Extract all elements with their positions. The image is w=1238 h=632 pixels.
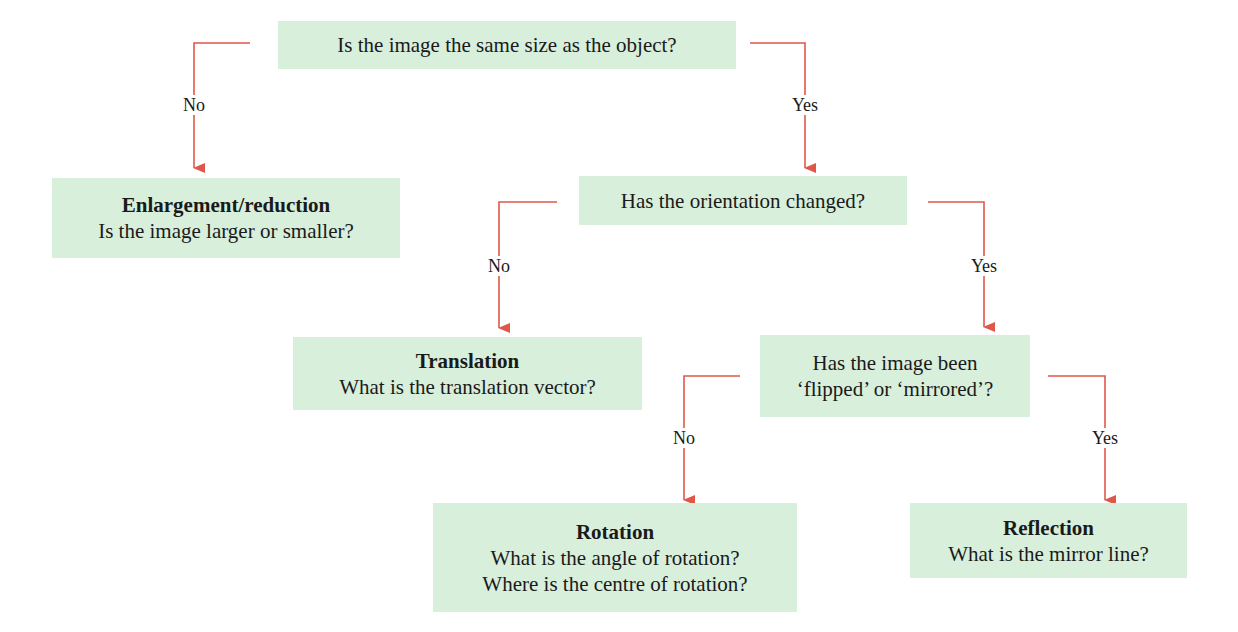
node-reflection-title: Reflection [1003, 515, 1094, 541]
node-flipped-line1: Has the image been [812, 350, 977, 376]
node-rotation-title: Rotation [576, 519, 654, 545]
label-same-size-yes: Yes [790, 95, 820, 115]
node-translation-title: Translation [416, 348, 519, 374]
node-translation-question: What is the translation vector? [339, 374, 596, 400]
node-same-size-text: Is the image the same size as the object… [337, 32, 676, 58]
node-flipped-line2: ‘flipped’ or ‘mirrored’? [797, 376, 994, 402]
node-rotation: Rotation What is the angle of rotation? … [433, 503, 797, 612]
label-orientation-yes: Yes [969, 256, 999, 276]
node-enlargement: Enlargement/reduction Is the image large… [52, 178, 400, 258]
node-translation: Translation What is the translation vect… [293, 337, 642, 410]
node-reflection: Reflection What is the mirror line? [910, 503, 1187, 578]
node-rotation-question1: What is the angle of rotation? [491, 545, 740, 571]
node-enlargement-question: Is the image larger or smaller? [98, 218, 354, 244]
node-same-size: Is the image the same size as the object… [278, 21, 736, 69]
node-orientation: Has the orientation changed? [579, 176, 907, 225]
node-orientation-text: Has the orientation changed? [621, 188, 865, 214]
node-enlargement-title: Enlargement/reduction [122, 192, 330, 218]
transformation-flowchart: No Yes No Yes No Yes Is the image the sa… [0, 0, 1238, 632]
label-orientation-no: No [486, 256, 512, 276]
node-flipped: Has the image been ‘flipped’ or ‘mirrore… [760, 335, 1030, 417]
label-flipped-no: No [671, 428, 697, 448]
label-flipped-yes: Yes [1090, 428, 1120, 448]
node-rotation-question2: Where is the centre of rotation? [482, 571, 747, 597]
node-reflection-question: What is the mirror line? [948, 541, 1149, 567]
label-same-size-no: No [181, 95, 207, 115]
